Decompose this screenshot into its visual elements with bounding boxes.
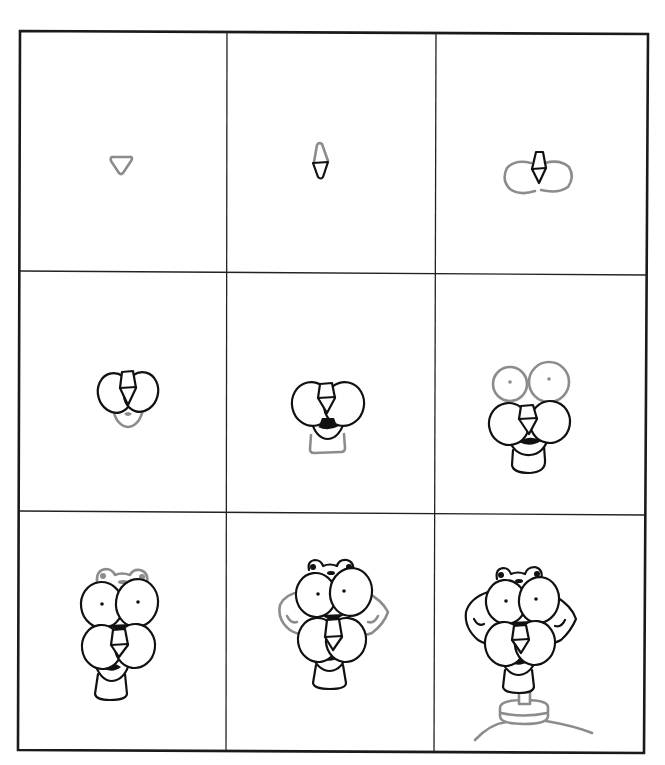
- right-smile-line-drawing: [368, 616, 378, 622]
- left-smile-line-drawing: [287, 616, 297, 622]
- nose-triangle-drawing: [111, 157, 132, 174]
- right-pupil-drawing: [534, 597, 538, 601]
- nose-line-drawing: [325, 636, 342, 637]
- right-pupil-drawing: [547, 377, 551, 381]
- step-6-cell: Step 6: [486, 362, 574, 473]
- nose-line-drawing: [111, 644, 128, 645]
- step-9-cell: Step 9: [466, 567, 592, 740]
- grid-line-horizontal-1: [20, 271, 647, 275]
- step-3-cell: Step 3: [505, 152, 572, 193]
- step-8-cell: Step 8: [279, 560, 388, 689]
- nose-line-drawing: [318, 397, 335, 398]
- nose-line-drawing: [512, 639, 529, 640]
- brow-drawing: [327, 571, 335, 575]
- left-ear-inner-drawing: [310, 564, 316, 570]
- left-ear-inner-drawing: [498, 572, 504, 578]
- right-eye-drawing: [529, 362, 569, 402]
- left-pupil-drawing: [100, 602, 104, 606]
- left-pupil-drawing: [316, 592, 320, 596]
- left-cheek-drawing: [505, 162, 535, 193]
- nose-drawing: [313, 162, 328, 179]
- right-shoulder-drawing: [546, 721, 592, 733]
- left-ear-inner-drawing: [100, 573, 106, 579]
- step-4-cell: Step 4: [93, 368, 162, 427]
- left-shoulder-drawing: [475, 722, 506, 740]
- step-1-cell: Step 1: [111, 157, 132, 174]
- step-7-cell: Step 7: [78, 569, 161, 700]
- right-pupil-drawing: [342, 589, 346, 593]
- step-5-cell: Step 5: [288, 378, 368, 453]
- tongue-drawing: [124, 412, 132, 416]
- snout-top-drawing: [314, 143, 328, 162]
- grid-line-vertical-2: [434, 33, 436, 752]
- mouth-shadow-drawing: [319, 418, 337, 426]
- nose-line-drawing: [120, 387, 136, 388]
- grid-line-horizontal-2: [19, 511, 645, 515]
- step-2-cell: Step 2: [313, 143, 328, 178]
- nose-line-drawing: [532, 168, 546, 169]
- left-eye-drawing: [493, 367, 527, 401]
- left-pupil-drawing: [508, 380, 512, 384]
- grid-line-vertical-1: [226, 32, 227, 751]
- left-pupil-drawing: [504, 599, 508, 603]
- nose-line-drawing: [519, 418, 537, 419]
- right-pupil-drawing: [136, 600, 140, 604]
- drawing-tutorial-sheet: Step 1 Step 2 Step 3 Step 4 Step 5: [0, 0, 665, 765]
